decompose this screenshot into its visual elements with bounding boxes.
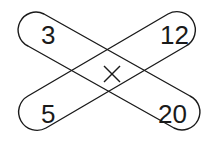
label-bottom-right: 20 xyxy=(158,99,187,129)
cross-diagram: 3 12 5 20 xyxy=(0,0,212,152)
multiply-icon xyxy=(104,66,120,82)
label-top-left: 3 xyxy=(41,20,55,50)
label-top-right: 12 xyxy=(160,20,189,50)
label-bottom-left: 5 xyxy=(41,99,55,129)
